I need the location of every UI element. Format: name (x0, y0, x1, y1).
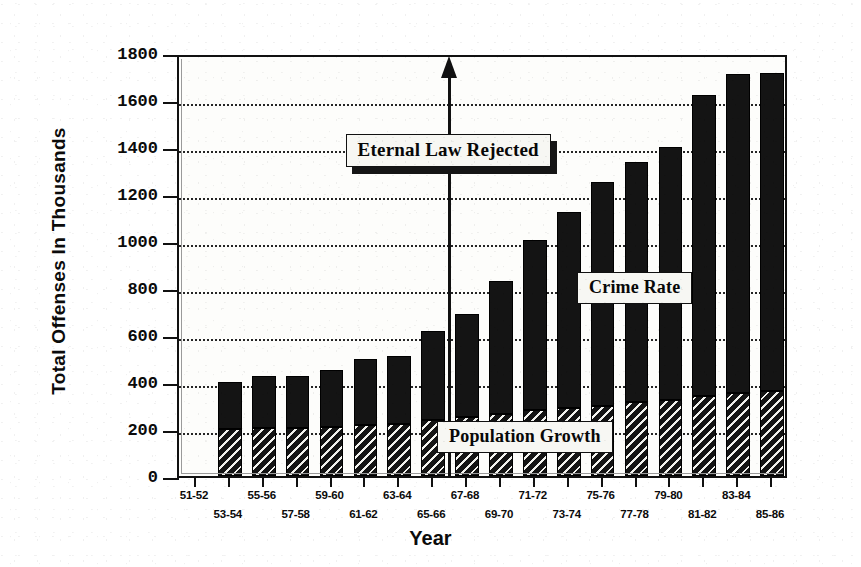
bar-segment-crime-rate (387, 356, 411, 424)
y-axis-label: 1400 (70, 140, 158, 157)
x-axis-tick (228, 478, 230, 487)
y-axis-label: 1800 (70, 46, 158, 63)
y-axis-label: 600 (70, 328, 158, 345)
x-axis-label: 77-78 (603, 508, 667, 520)
x-axis-label: 69-70 (467, 508, 531, 520)
y-axis-title: Total Offenses In Thousands (48, 106, 70, 416)
bar-segment-population-growth (286, 428, 310, 476)
bar (218, 382, 242, 476)
x-axis-label: 65-66 (399, 508, 463, 520)
bar-segment-population-growth (354, 425, 378, 476)
bar-segment-crime-rate (523, 240, 547, 410)
x-axis-label: 71-72 (501, 489, 565, 501)
y-axis-label: 0 (70, 469, 158, 486)
bar (692, 95, 716, 476)
x-axis-tick (601, 478, 603, 487)
x-axis-label: 81-82 (670, 508, 734, 520)
y-axis-label: 1000 (70, 234, 158, 251)
bar-segment-population-growth (760, 391, 784, 476)
bar-segment-crime-rate (455, 314, 479, 417)
bar (354, 359, 378, 477)
x-axis-label: 61-62 (331, 508, 395, 520)
bar-segment-population-growth (252, 428, 276, 476)
x-axis-tick (296, 478, 298, 487)
bar (625, 162, 649, 476)
x-axis-tick (499, 478, 501, 487)
bar-segment-population-growth (625, 402, 649, 476)
bar-segment-crime-rate (252, 376, 276, 428)
bar-segment-crime-rate (286, 376, 310, 428)
y-axis-label: 1200 (70, 187, 158, 204)
annotation-population-growth: Population Growth (437, 421, 613, 453)
x-axis-label: 59-60 (298, 489, 362, 501)
x-axis-tick (702, 478, 704, 487)
x-axis-label: 83-84 (704, 489, 768, 501)
bar-segment-crime-rate (760, 73, 784, 391)
bar-segment-population-growth (726, 393, 750, 476)
bar-segment-crime-rate (726, 74, 750, 392)
bar (760, 73, 784, 476)
bar (286, 376, 310, 476)
x-axis-label: 79-80 (636, 489, 700, 501)
x-axis-title: Year (0, 527, 861, 550)
y-axis-label: 1600 (70, 93, 158, 110)
bar-segment-population-growth (218, 429, 242, 476)
x-axis-label: 55-56 (230, 489, 294, 501)
bar-segment-crime-rate (320, 370, 344, 426)
y-axis-tick (163, 478, 179, 480)
x-axis-tick (330, 478, 332, 487)
x-axis-tick (770, 478, 772, 487)
bar-segment-crime-rate (557, 212, 581, 408)
x-axis-tick (363, 478, 365, 487)
x-axis-tick (397, 478, 399, 487)
bar-segment-population-growth (692, 396, 716, 476)
x-axis-label: 85-86 (738, 508, 802, 520)
bar (320, 370, 344, 476)
x-axis-tick (465, 478, 467, 487)
x-axis-tick (431, 478, 433, 487)
bar (387, 356, 411, 476)
eternal-law-arrow-head (441, 56, 457, 78)
plot-area (177, 55, 787, 478)
y-axis-label: 200 (70, 422, 158, 439)
y-axis-label: 800 (70, 281, 158, 298)
bar-segment-population-growth (387, 424, 411, 476)
x-axis-tick (635, 478, 637, 487)
bar-segment-population-growth (320, 427, 344, 476)
x-axis-label: 57-58 (264, 508, 328, 520)
bar (421, 331, 445, 476)
x-axis-tick (736, 478, 738, 487)
bar-segment-crime-rate (354, 359, 378, 426)
annotation-eternal-law: Eternal Law Rejected (346, 134, 551, 167)
y-axis-label: 400 (70, 375, 158, 392)
x-axis-tick (668, 478, 670, 487)
bar-segment-crime-rate (218, 382, 242, 429)
bar (726, 74, 750, 476)
x-axis-label: 63-64 (365, 489, 429, 501)
annotation-crime-rate: Crime Rate (577, 272, 692, 304)
x-axis-label: 73-74 (535, 508, 599, 520)
bar (252, 376, 276, 476)
bar-group (179, 57, 785, 476)
bar-segment-crime-rate (489, 281, 513, 414)
x-axis-tick (567, 478, 569, 487)
x-axis-tick (194, 478, 196, 487)
x-axis-label: 75-76 (569, 489, 633, 501)
bar-segment-population-growth (659, 400, 683, 476)
chart-canvas: Total Offenses In Thousands 020040060080… (0, 0, 861, 567)
x-axis-tick (533, 478, 535, 487)
bar-segment-crime-rate (692, 95, 716, 396)
x-axis-label: 67-68 (433, 489, 497, 501)
x-axis-label: 51-52 (162, 489, 226, 501)
x-axis-label: 53-54 (196, 508, 260, 520)
x-axis-tick (262, 478, 264, 487)
bar (659, 147, 683, 476)
bar-segment-crime-rate (421, 331, 445, 419)
